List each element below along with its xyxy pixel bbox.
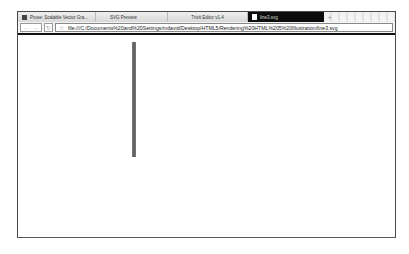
tab-label: line3.svg [260, 15, 278, 20]
tab-prose-svg[interactable]: Prose: Scalable Vector Gra... [18, 12, 96, 22]
bookmark-star-icon[interactable]: ☆ [59, 24, 64, 31]
back-arrow-icon[interactable]: ← [24, 25, 30, 31]
new-tab-button[interactable]: + [324, 12, 395, 22]
tab-label: Prose: Scalable Vector Gra... [30, 15, 88, 20]
page-content [18, 37, 395, 237]
page-icon [252, 14, 257, 20]
address-bar[interactable]: ☆ file:///C:/Documents%20and%20Settings/… [55, 23, 393, 32]
reload-icon: ↻ [46, 24, 51, 31]
site-favicon-icon [22, 15, 27, 20]
tab-svg-preview[interactable]: SVG Preview [96, 12, 168, 22]
svg-vertical-line [132, 42, 136, 157]
tab-label: SVG Preview [110, 15, 137, 20]
reload-button[interactable]: ↻ [44, 23, 53, 32]
tab-line3-svg[interactable]: line3.svg [248, 12, 324, 22]
url-text[interactable]: file:///C:/Documents%20and%20Settings/md… [68, 25, 338, 31]
forward-arrow-icon[interactable]: → [33, 25, 39, 31]
browser-window: Prose: Scalable Vector Gra... SVG Previe… [17, 11, 396, 238]
navigation-toolbar: ← → ↻ ☆ file:///C:/Documents%20and%20Set… [18, 22, 395, 35]
plus-icon: + [328, 14, 332, 20]
tab-trivit-editor[interactable]: Trivit Editor v1.4 [168, 12, 248, 22]
back-forward-button[interactable]: ← → [20, 23, 42, 32]
tab-label: Trivit Editor v1.4 [191, 15, 223, 20]
